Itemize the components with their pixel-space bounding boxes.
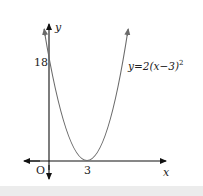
origin-label: O (36, 164, 45, 177)
curve-right-arrow (127, 29, 128, 36)
footer-band (0, 186, 203, 196)
equation-text: y=2(x−3) (127, 60, 179, 72)
curve-left-arrow (44, 29, 45, 36)
y-axis-label: y (54, 21, 62, 34)
equation-label: y=2(x−3)2 (127, 59, 183, 72)
equation-exponent: 2 (179, 59, 183, 67)
x-axis-label: x (163, 166, 170, 179)
vertex-label: 3 (84, 164, 91, 177)
y-intercept-label: 18 (34, 56, 48, 69)
parabola-curve (45, 30, 129, 161)
parabola-graph: y x O 18 3 y=2(x−3)2 (0, 0, 203, 196)
